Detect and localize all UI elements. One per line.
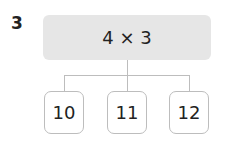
connector-right: [189, 75, 190, 91]
expression-box: 4 × 3: [43, 15, 211, 60]
connector-middle: [127, 75, 128, 91]
option-label: 10: [53, 102, 76, 123]
answer-option-11[interactable]: 11: [107, 91, 147, 134]
question-number: 3: [11, 13, 23, 33]
answer-option-10[interactable]: 10: [44, 91, 84, 134]
expression-text: 4 × 3: [102, 27, 151, 48]
answer-option-12[interactable]: 12: [169, 91, 209, 134]
connector-left: [64, 75, 65, 91]
option-label: 11: [116, 102, 139, 123]
option-label: 12: [178, 102, 201, 123]
connector-stem: [127, 60, 128, 76]
